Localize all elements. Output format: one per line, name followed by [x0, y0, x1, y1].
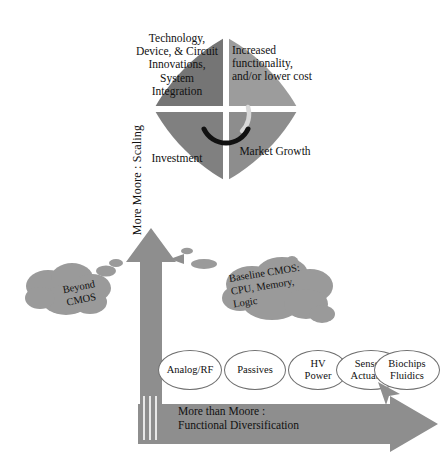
ellipse-passives[interactable]: Passives [224, 350, 286, 390]
connector-arrow-left-icon [168, 252, 184, 266]
diagram-canvas: Technology, Device, & Circuit Innovation… [0, 0, 442, 462]
ellipse-analog-rf-label: Analog/RF [167, 364, 214, 377]
cloud-baseline-cmos[interactable] [212, 248, 344, 336]
ellipse-hv-power-line1: HV [305, 358, 332, 371]
quadrant-label-market-growth: Market Growth [233, 145, 317, 158]
quadrant-label-functionality: Increased functionality, and/or lower co… [232, 44, 312, 84]
connector-arrow-icon [376, 380, 402, 406]
quadrant-label-technology: Technology, Device, & Circuit Innovation… [135, 32, 219, 98]
ellipse-passives-label: Passives [237, 364, 273, 377]
ellipse-biochips-line1: Biochips [388, 358, 425, 371]
quadrant-label-investment: Investment [135, 152, 219, 165]
ellipse-analog-rf[interactable]: Analog/RF [158, 350, 222, 390]
ellipse-hv-power-line2: Power [305, 370, 332, 383]
cloud-beyond-cmos[interactable] [18, 252, 126, 328]
